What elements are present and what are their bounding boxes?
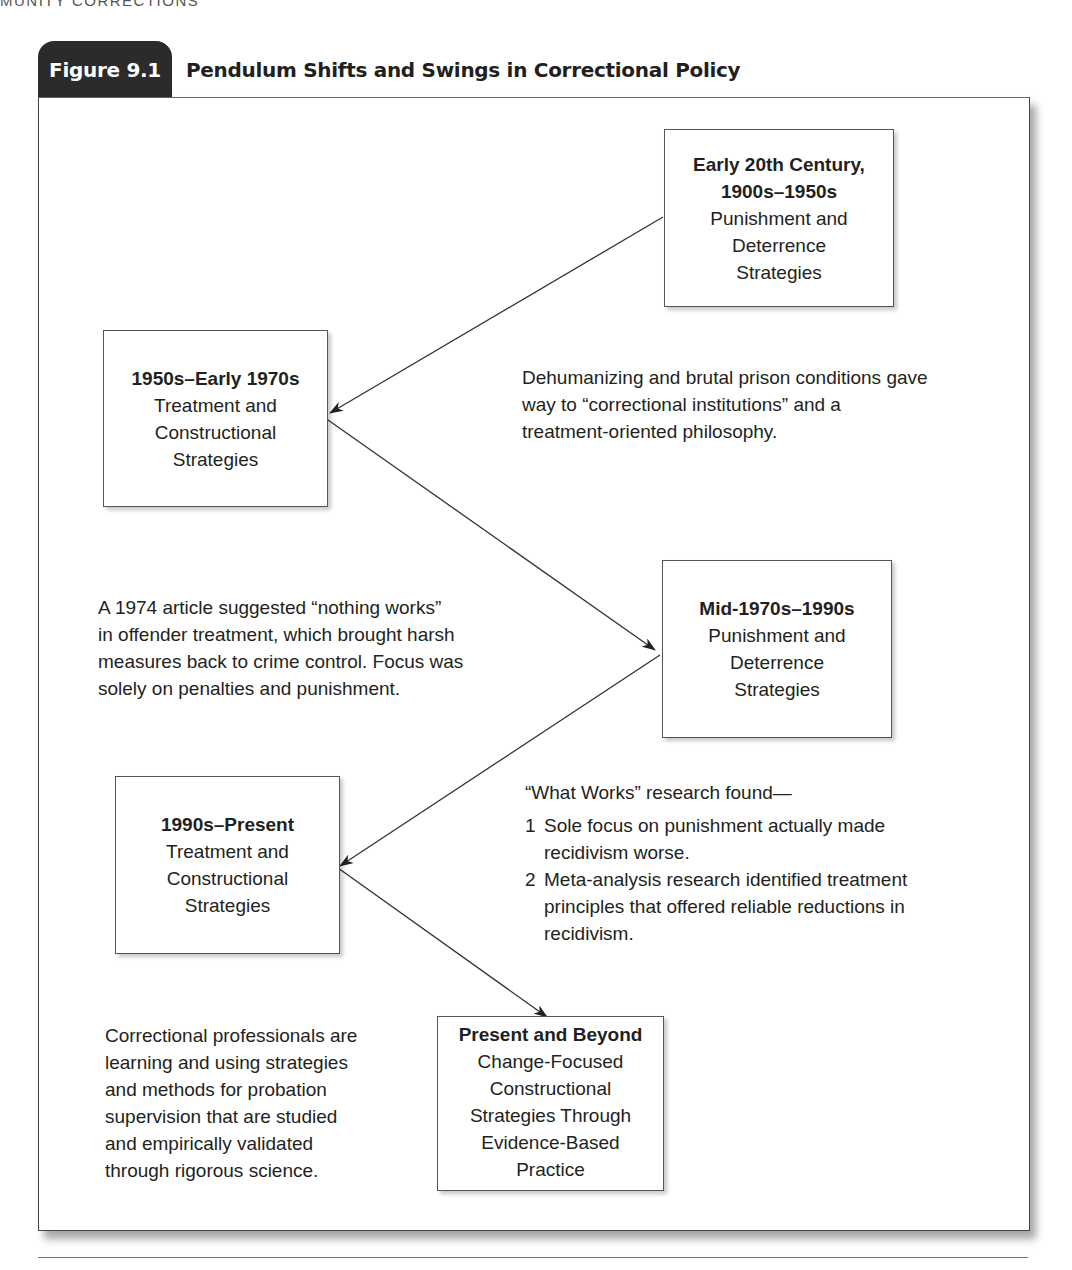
box-body-line: Practice — [516, 1156, 585, 1183]
note-line: solely on penalties and punishment. — [98, 675, 463, 702]
box-heading: 1950s–Early 1970s — [132, 365, 300, 392]
box-body-line: Constructional — [155, 419, 276, 446]
box-heading: 1900s–1950s — [721, 178, 837, 205]
box-body-line: Strategies — [734, 676, 820, 703]
note-line: and methods for probation — [105, 1076, 357, 1103]
note-line: Dehumanizing and brutal prison condition… — [522, 364, 928, 391]
note-line: in offender treatment, which brought har… — [98, 621, 463, 648]
note-line: and empirically validated — [105, 1130, 357, 1157]
note-line: through rigorous science. — [105, 1157, 357, 1184]
note-intro: “What Works” research found— — [525, 779, 907, 806]
figure-title: Pendulum Shifts and Swings in Correction… — [186, 58, 740, 82]
note-line: recidivism worse. — [544, 839, 885, 866]
note-line: measures back to crime control. Focus wa… — [98, 648, 463, 675]
box-1990s-present: 1990s–Present Treatment and Construction… — [115, 776, 340, 954]
box-body-line: Strategies — [185, 892, 271, 919]
note-line: recidivism. — [544, 920, 907, 947]
box-body-line: Change-Focused — [478, 1048, 624, 1075]
box-body-line: Punishment and — [708, 622, 845, 649]
figure-label: Figure 9.1 — [38, 41, 172, 98]
note-dehumanizing: Dehumanizing and brutal prison condition… — [522, 364, 928, 445]
box-body-line: Treatment and — [154, 392, 277, 419]
note-nothing-works: A 1974 article suggested “nothing works”… — [98, 594, 463, 702]
box-heading: Present and Beyond — [459, 1021, 643, 1048]
note-line: Meta-analysis research identified treatm… — [544, 866, 907, 893]
running-head: MUNITY CORRECTIONS — [0, 0, 199, 9]
box-present-and-beyond: Present and Beyond Change-Focused Constr… — [437, 1016, 664, 1191]
box-early-20th-century: Early 20th Century, 1900s–1950s Punishme… — [664, 129, 894, 307]
box-body-line: Constructional — [167, 865, 288, 892]
note-line: A 1974 article suggested “nothing works” — [98, 594, 463, 621]
list-item: 1 Sole focus on punishment actually made… — [525, 812, 907, 866]
list-number: 2 — [525, 866, 544, 947]
box-body-line: Constructional — [490, 1075, 611, 1102]
box-body-line: Strategies — [173, 446, 259, 473]
box-body-line: Evidence-Based — [481, 1129, 619, 1156]
box-body-line: Punishment and — [710, 205, 847, 232]
box-heading: Mid-1970s–1990s — [699, 595, 854, 622]
note-line: learning and using strategies — [105, 1049, 357, 1076]
list-item: 2 Meta-analysis research identified trea… — [525, 866, 907, 947]
box-body-line: Treatment and — [166, 838, 289, 865]
note-line: supervision that are studied — [105, 1103, 357, 1130]
box-body-line: Strategies — [736, 259, 822, 286]
note-line: Sole focus on punishment actually made — [544, 812, 885, 839]
box-1950s-early-1970s: 1950s–Early 1970s Treatment and Construc… — [103, 330, 328, 507]
note-line: way to “correctional institutions” and a — [522, 391, 928, 418]
bottom-rule — [38, 1257, 1028, 1258]
note-line: Correctional professionals are — [105, 1022, 357, 1049]
box-mid-1970s-1990s: Mid-1970s–1990s Punishment and Deterrenc… — [662, 560, 892, 738]
list-number: 1 — [525, 812, 544, 866]
box-heading: 1990s–Present — [161, 811, 294, 838]
box-body-line: Deterrence — [730, 649, 824, 676]
note-professionals: Correctional professionals are learning … — [105, 1022, 357, 1184]
note-line: principles that offered reliable reducti… — [544, 893, 907, 920]
box-body-line: Deterrence — [732, 232, 826, 259]
box-body-line: Strategies Through — [470, 1102, 631, 1129]
note-what-works: “What Works” research found— 1 Sole focu… — [525, 779, 907, 947]
note-line: treatment-oriented philosophy. — [522, 418, 928, 445]
box-heading: Early 20th Century, — [693, 151, 865, 178]
